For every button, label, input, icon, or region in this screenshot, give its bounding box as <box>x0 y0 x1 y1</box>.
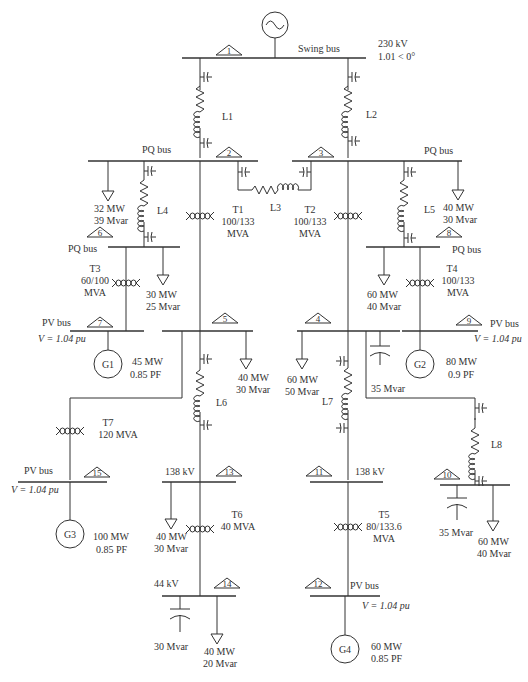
svg-text:6: 6 <box>98 228 103 238</box>
line-L8 <box>469 403 487 486</box>
bus-9-type: PV bus <box>490 318 519 329</box>
label-L4: L4 <box>157 205 168 216</box>
load-bus8 <box>378 247 390 285</box>
generator-G1: G1 <box>94 331 122 378</box>
bus-number-1: 1 <box>216 45 242 56</box>
generator-G3: G3 <box>56 482 84 548</box>
t5-rating: 80/133.6 <box>366 521 401 532</box>
t3-name: T3 <box>89 263 100 274</box>
bus-number-13: 13 <box>216 466 242 477</box>
load-60mw-b10: 60 MW <box>478 536 509 547</box>
load-30mw: 30 MW <box>146 289 177 300</box>
load-30mvar-b13: 30 Mvar <box>154 543 189 554</box>
svg-text:4: 4 <box>316 314 321 324</box>
svg-text:12: 12 <box>314 579 323 589</box>
t6-name: T6 <box>231 509 242 520</box>
t2-unit: MVA <box>299 228 322 239</box>
bus-15-type: PV bus <box>24 465 53 476</box>
bus5-to-t7-line <box>70 331 182 480</box>
bus-9-voltage: V = 1.04 pu <box>474 333 522 344</box>
svg-text:5: 5 <box>223 314 228 324</box>
svg-text:G4: G4 <box>339 644 351 655</box>
g3-power: 100 MW <box>93 531 129 542</box>
bus-number-14: 14 <box>214 578 240 589</box>
load-60mw-b4: 60 MW <box>287 374 318 385</box>
t7-name: T7 <box>102 417 113 428</box>
t1-name: T1 <box>232 204 243 215</box>
svg-text:1: 1 <box>227 46 232 56</box>
load-bus4 <box>296 331 308 369</box>
bus-15-voltage: V = 1.04 pu <box>11 484 59 495</box>
bus-number-8: 8 <box>436 227 462 238</box>
capacitor-bus14 <box>170 596 190 632</box>
swing-generator <box>262 12 288 58</box>
capacitor-bus10 <box>447 485 467 520</box>
svg-text:15: 15 <box>93 468 103 478</box>
svg-text:9: 9 <box>467 316 472 326</box>
line-L7 <box>336 331 352 480</box>
t1-unit: MVA <box>227 228 250 239</box>
line-L4 <box>138 161 156 247</box>
cap-30mvar-b14: 30 Mvar <box>154 641 189 652</box>
g3-pf: 0.85 PF <box>96 544 128 555</box>
t5-unit: MVA <box>373 533 396 544</box>
generator-G2: G2 <box>406 331 434 378</box>
g4-power: 60 MW <box>371 641 402 652</box>
load-39mvar: 39 Mvar <box>94 215 129 226</box>
bus-number-11: 11 <box>306 466 332 477</box>
bus-7-voltage: V = 1.04 pu <box>38 333 86 344</box>
svg-text:2: 2 <box>227 148 232 158</box>
bus-6-type: PQ bus <box>68 243 97 254</box>
load-bus3 <box>452 161 464 200</box>
label-L6: L6 <box>216 397 227 408</box>
swing-angle: 1.01 < 0° <box>378 51 415 62</box>
bus-number-9: 9 <box>456 315 482 326</box>
g1-pf: 0.85 PF <box>130 369 162 380</box>
bus-number-15: 15 <box>84 467 110 478</box>
load-40mvar-b8: 40 Mvar <box>367 301 402 312</box>
bus-13-kv: 138 kV <box>165 466 196 477</box>
load-bus10 <box>487 485 499 531</box>
bus-number-4: 4 <box>305 313 331 324</box>
cap-35mvar-b10: 35 Mvar <box>439 527 474 538</box>
load-40mw: 40 MW <box>443 202 474 213</box>
svg-text:3: 3 <box>319 148 324 158</box>
t4-unit: MVA <box>447 287 470 298</box>
t2-rating: 100/133 <box>294 216 327 227</box>
bus-number-10: 10 <box>434 469 460 480</box>
load-bus5 <box>240 331 252 369</box>
t4-rating: 100/133 <box>442 275 475 286</box>
load-bus6 <box>157 247 169 285</box>
bus-2-type: PQ bus <box>142 144 171 155</box>
svg-text:11: 11 <box>315 467 324 477</box>
bus-number-5: 5 <box>212 313 238 324</box>
label-L8: L8 <box>491 439 502 450</box>
load-30mvar-b5: 30 Mvar <box>236 384 271 395</box>
line-L1 <box>194 58 212 158</box>
load-60mw-b8: 60 MW <box>367 289 398 300</box>
label-L7: L7 <box>322 396 333 407</box>
g2-power: 80 MW <box>446 356 477 367</box>
label-L3: L3 <box>270 202 281 213</box>
t7-rating: 120 MVA <box>98 429 138 440</box>
load-40mw-b14: 40 MW <box>204 646 235 657</box>
t4-name: T4 <box>446 263 457 274</box>
bus-12-type: PV bus <box>350 580 379 591</box>
t3-unit: MVA <box>84 287 107 298</box>
load-bus13 <box>165 482 177 529</box>
label-L2: L2 <box>366 109 377 120</box>
generator-G4: G4 <box>331 596 359 663</box>
bus-number-12: 12 <box>305 578 331 589</box>
bus-number-6: 6 <box>87 227 113 238</box>
bus-11-kv: 138 kV <box>355 466 386 477</box>
capacitor-bus4 <box>370 331 390 365</box>
svg-text:14: 14 <box>223 579 233 589</box>
load-40mw-b13: 40 MW <box>156 531 187 542</box>
svg-text:13: 13 <box>225 467 235 477</box>
svg-text:G2: G2 <box>414 359 426 370</box>
load-40mw-b5: 40 MW <box>238 372 269 383</box>
load-50mvar-b4: 50 Mvar <box>285 386 320 397</box>
t6-rating: 40 MVA <box>221 521 256 532</box>
line-L6 <box>194 331 212 482</box>
bus-12-voltage: V = 1.04 pu <box>362 600 410 611</box>
